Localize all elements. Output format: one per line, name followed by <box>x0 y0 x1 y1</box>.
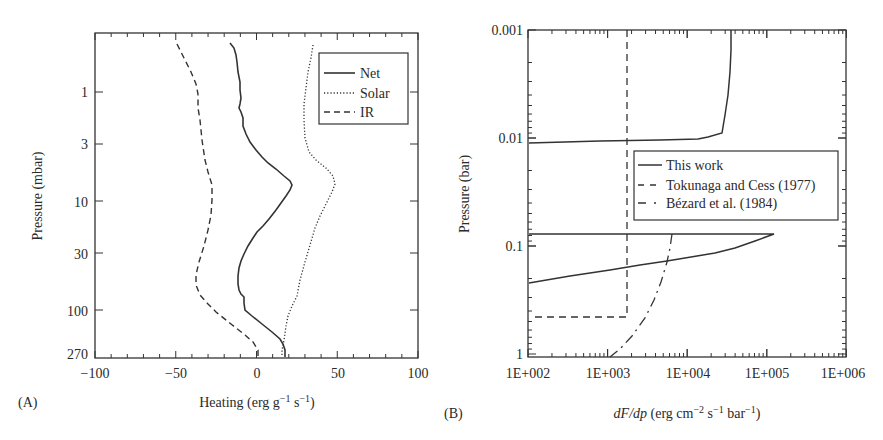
panel-b-tag: (B) <box>444 406 463 422</box>
a-xtick-label: −50 <box>165 366 187 381</box>
legend-solar-label: Solar <box>360 86 390 101</box>
a-ytick-label: 30 <box>74 247 88 262</box>
panel-a-ylabel: Pressure (mbar) <box>30 151 46 240</box>
xlabel-sup: −1 <box>745 404 756 415</box>
a-xtick-label: 50 <box>331 366 345 381</box>
legend-ir-label: IR <box>360 105 375 120</box>
xlabel-part: Heating (erg g <box>199 395 280 411</box>
b-xtick-label: 1E+006 <box>821 366 865 381</box>
a-xtick-label: 0 <box>254 366 261 381</box>
panel-b-text: This work Tokunaga and Cess (1977) Bézar… <box>444 23 865 422</box>
a-ytick-label: 1 <box>81 85 88 100</box>
legend-this-work-label: This work <box>666 158 723 173</box>
a-ytick-label: 10 <box>74 195 88 210</box>
legend-bezard-label: Bézard et al. (1984) <box>666 196 778 212</box>
xlabel-part: s <box>290 395 299 410</box>
xlabel-part: bar <box>724 406 746 421</box>
panel-a-y-ticks <box>95 92 418 310</box>
xlabel-sup: −1 <box>280 393 291 404</box>
b-ytick-label: 1 <box>516 347 523 362</box>
a-xtick-label: −100 <box>81 366 110 381</box>
panel-a-tag: (A) <box>18 395 38 411</box>
b-xtick-label: 1E+005 <box>745 366 789 381</box>
xlabel-sup: −1 <box>299 393 310 404</box>
a-ytick-label: 100 <box>67 304 88 319</box>
panel-a-plot <box>95 33 418 358</box>
panel-a-xlabel: Heating (erg g−1 s−1) <box>199 393 315 411</box>
b-ytick-label: 0.1 <box>506 239 524 254</box>
series-bezard-line <box>610 234 672 357</box>
legend-net-label: Net <box>360 66 380 81</box>
xlabel-sup: −2 <box>693 404 704 415</box>
series-this-work-line <box>529 30 731 143</box>
b-xtick-label: 1E+004 <box>666 366 710 381</box>
a-ytick-label: 270 <box>67 347 88 362</box>
panel-a-text: Net Solar IR −100 −50 0 50 100 1 3 10 30… <box>18 66 429 411</box>
b-xtick-label: 1E+003 <box>586 366 630 381</box>
xlabel-italic: dF/dp <box>614 406 647 421</box>
xlabel-part: ) <box>310 395 315 411</box>
xlabel-sup: −1 <box>713 404 724 415</box>
b-xtick-label: 1E+002 <box>506 366 550 381</box>
a-xtick-label: 100 <box>408 366 429 381</box>
a-ytick-label: 3 <box>81 137 88 152</box>
xlabel-part: s <box>704 406 713 421</box>
xlabel-part: ) <box>756 406 761 422</box>
panel-b-xlabel: dF/dp (erg cm−2 s−1 bar−1) <box>614 404 761 422</box>
panel-b-plot <box>528 30 846 357</box>
b-ytick-label: 0.001 <box>492 23 524 38</box>
panel-b-ylabel: Pressure (bar) <box>457 155 473 233</box>
xlabel-part: (erg cm <box>647 406 693 422</box>
series-net-line <box>230 43 292 357</box>
legend-tokunaga-label: Tokunaga and Cess (1977) <box>666 178 816 194</box>
b-ytick-label: 0.01 <box>499 131 524 146</box>
figure-canvas: Net Solar IR −100 −50 0 50 100 1 3 10 30… <box>0 0 883 440</box>
series-this-work-line-lower <box>529 234 774 283</box>
